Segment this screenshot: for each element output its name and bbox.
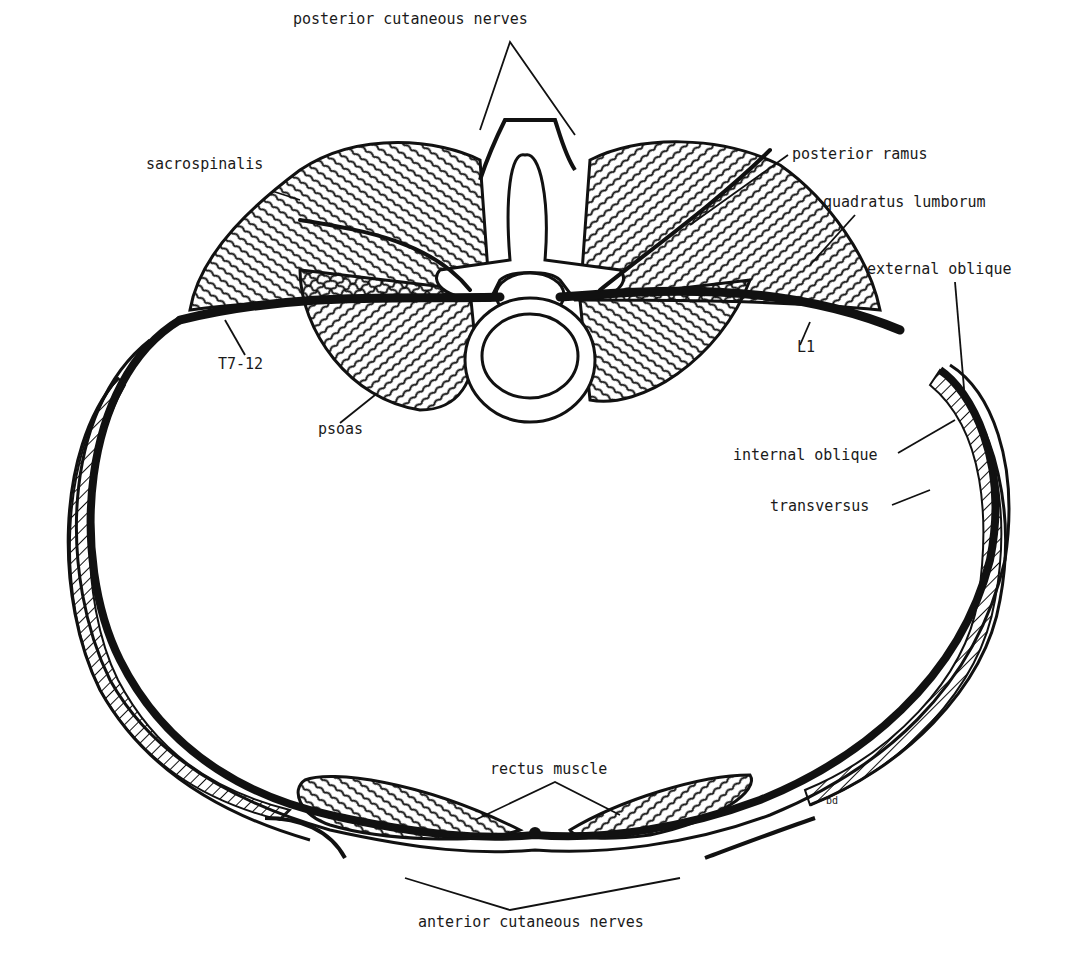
label-psoas: psoas — [318, 420, 363, 438]
label-t7-12: T7-12 — [218, 355, 263, 373]
label-external-oblique: external oblique — [867, 260, 1012, 278]
artist-mark: bd — [826, 792, 838, 810]
label-sacrospinalis: sacrospinalis — [146, 155, 263, 173]
label-anterior-cutaneous-nerves: anterior cutaneous nerves — [418, 913, 644, 931]
label-quadratus-lumborum: quadratus lumborum — [823, 193, 986, 211]
external-oblique-right-band — [805, 370, 1001, 805]
linea-alba-node — [529, 827, 541, 839]
label-posterior-cutaneous-nerves: posterior cutaneous nerves — [293, 10, 528, 28]
label-transversus: transversus — [770, 497, 869, 515]
label-l1: L1 — [797, 338, 815, 356]
label-internal-oblique: internal oblique — [733, 446, 878, 464]
label-posterior-ramus: posterior ramus — [792, 145, 927, 163]
label-rectus-muscle: rectus muscle — [490, 760, 607, 778]
